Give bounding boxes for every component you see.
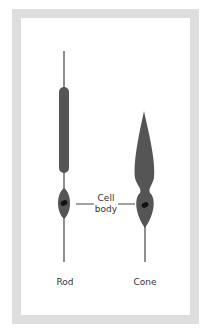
rod-cell bbox=[58, 51, 70, 262]
cell-body-label-line2: body bbox=[91, 204, 121, 215]
cell-body-label: Cell body bbox=[91, 193, 121, 215]
rod-outer-segment bbox=[59, 87, 69, 173]
cell-body-label-line1: Cell bbox=[91, 193, 121, 204]
rod-label: Rod bbox=[50, 277, 80, 288]
cone-cell bbox=[135, 111, 155, 262]
cone-shape bbox=[135, 111, 155, 228]
photoreceptor-diagram bbox=[0, 0, 205, 335]
cone-label: Cone bbox=[129, 277, 161, 288]
